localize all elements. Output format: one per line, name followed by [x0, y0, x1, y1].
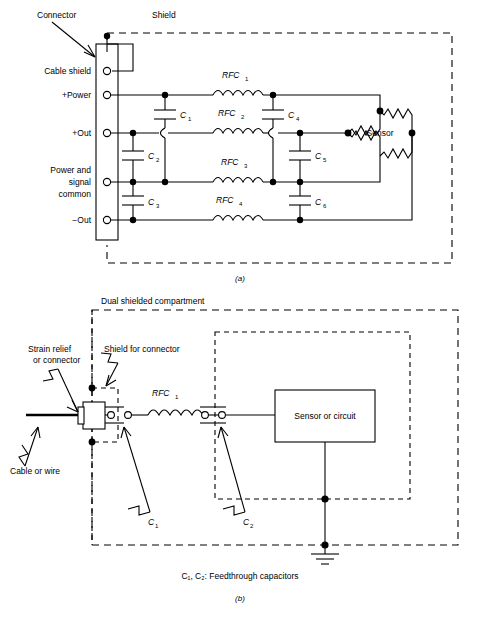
pin-plus-power[interactable] [103, 91, 110, 98]
shield-for-connector-label: Shield for connector [104, 344, 180, 354]
cable-leader-line [25, 427, 38, 466]
inductor-rfc3-label: RFC [221, 157, 239, 167]
inductor-rfc1-label: RFC [222, 70, 240, 80]
node-c1-bottom [162, 179, 168, 185]
node-c6-bottom [297, 217, 303, 223]
earth-ground-icon [311, 554, 339, 564]
sensor-label: Sensor [367, 128, 394, 138]
c2-leader-zig [223, 506, 245, 515]
c1-leader-line [124, 427, 150, 512]
caption-b: (b) [235, 594, 245, 603]
capacitor-c2b-label: C [243, 517, 250, 527]
inductor-rfc2-label: RFC [218, 108, 236, 118]
pin-label-plus-out: +Out [72, 128, 91, 138]
compartment-label: Dual shielded compartment [101, 296, 205, 306]
capacitor-c6: C 6 [289, 182, 327, 220]
diagram-b: Dual shielded compartment Cable or wire … [0, 290, 480, 619]
node-c4-bottom [270, 179, 276, 185]
ground-node-inner [321, 495, 328, 502]
capacitor-c5: C 5 [289, 133, 327, 182]
inductor-rfc4-label: RFC [216, 195, 234, 205]
capacitor-c6-label: C [315, 197, 322, 207]
strain-relief-label-2: or connector [33, 355, 80, 365]
capacitor-c1-feedthrough [105, 407, 148, 423]
node-c2-top [130, 130, 136, 136]
diagram-a: Shield Connector Cable shield +Power +Ou… [0, 0, 480, 290]
capacitor-c1-sub: 1 [188, 116, 192, 122]
rail-common-right [263, 166, 380, 182]
capacitor-c1b-sub: 1 [155, 523, 159, 529]
figure-page: Shield Connector Cable shield +Power +Ou… [0, 0, 480, 619]
bridge-node-top [377, 108, 384, 115]
pin-common[interactable] [103, 178, 110, 185]
inductor-rfc1b-sub: 1 [175, 394, 179, 400]
node-c1-top [162, 92, 168, 98]
capacitor-c4-sub: 4 [296, 116, 300, 122]
c1-terminal-left[interactable] [108, 412, 115, 419]
shield-connector-leader-zig [101, 353, 118, 363]
shield-label: Shield [152, 10, 176, 20]
strain-relief-body [83, 402, 105, 429]
pin-label-cable-shield: Cable shield [44, 66, 91, 76]
sensor-bridge: Sensor [348, 109, 412, 158]
ground-node-outer [321, 541, 328, 548]
capacitor-c6-sub: 6 [323, 203, 327, 209]
inductor-rfc1-b: RFC 1 [148, 388, 218, 415]
capacitor-c3-sub: 3 [156, 203, 160, 209]
capacitor-c3: C 3 [122, 182, 160, 220]
connector-label: Connector [37, 10, 76, 20]
node-c4-top [270, 92, 276, 98]
capacitor-c2b-sub: 2 [250, 523, 254, 529]
capacitor-c1b-label: C [148, 517, 155, 527]
inductor-rfc1-sub: 1 [245, 76, 249, 82]
pin-cable-shield[interactable] [103, 67, 110, 74]
strain-relief-leader-zig [43, 369, 58, 381]
pin-label-common-1: Power and [50, 165, 91, 175]
pin-label-minus-out: −Out [72, 215, 91, 225]
connector-leader-arrowhead [84, 45, 95, 57]
shield-junction-dot [104, 33, 110, 39]
c1-terminal-right[interactable] [125, 412, 132, 419]
footnote-b: C₁, C₂: Feedthrough capacitors [181, 571, 298, 581]
node-c5-top [297, 130, 303, 136]
pin-label-common-2: signal [69, 177, 91, 187]
capacitor-c5-label: C [315, 151, 322, 161]
inductor-rfc1b-label: RFC [152, 388, 170, 398]
capacitor-c1: C 1 [154, 95, 192, 182]
inductor-rfc2-sub: 2 [241, 114, 245, 120]
cable-leader-arrowhead [31, 427, 40, 438]
capacitor-c4: C 4 [262, 95, 300, 182]
c1-leader-zig [128, 506, 150, 515]
c2-terminal-right[interactable] [219, 412, 226, 419]
cable-leader-zig [19, 445, 28, 466]
strain-relief-label-1: Strain relief [28, 344, 72, 354]
bridge-node-right [409, 130, 416, 137]
capacitor-c2-label: C [148, 151, 155, 161]
sensor-or-circuit-label: Sensor or circuit [294, 411, 356, 421]
pin-minus-out[interactable] [103, 216, 110, 223]
caption-a: (a) [235, 274, 245, 283]
shield-dot-top [89, 385, 96, 392]
c2-leader-line [221, 427, 245, 512]
pin-label-common-3: common [58, 189, 91, 199]
capacitor-c5-sub: 5 [323, 157, 327, 163]
inductor-rfc1: RFC 1 [213, 70, 263, 95]
capacitor-c2-sub: 2 [156, 157, 160, 163]
shield-boundary [107, 33, 452, 263]
inductor-rfc4: RFC 4 [213, 195, 263, 220]
rail-plus-power-right [263, 95, 380, 111]
inductor-rfc3: RFC 3 [213, 157, 263, 182]
inductor-rfc2: RFC 2 [213, 108, 263, 133]
capacitor-c1-label: C [180, 110, 187, 120]
shield-dot-bottom [89, 439, 96, 446]
capacitor-c2: C 2 [122, 133, 160, 182]
node-c3-bottom [130, 217, 136, 223]
strain-relief-leader-arrowhead [67, 400, 78, 412]
inductor-rfc4-sub: 4 [239, 201, 243, 207]
connector-leader-line [52, 22, 95, 57]
capacitor-c4-label: C [288, 110, 295, 120]
pin-plus-out[interactable] [103, 129, 110, 136]
c2-terminal-left[interactable] [202, 412, 209, 419]
strain-relief-collar [78, 407, 84, 424]
inductor-rfc3-sub: 3 [244, 163, 248, 169]
